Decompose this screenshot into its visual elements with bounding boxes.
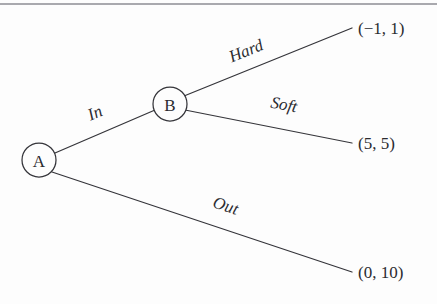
edge-label-soft: Soft <box>269 93 300 117</box>
node-label-a: A <box>33 152 46 171</box>
edge-label-in: In <box>84 101 105 124</box>
game-tree-figure: A B In Hard Soft Out (−1, 1) (5, 5) (0, … <box>0 0 437 304</box>
edge-line-in <box>55 110 155 153</box>
edge-label-hard: Hard <box>225 35 266 66</box>
payoff-label-hard: (−1, 1) <box>358 19 404 38</box>
edge-line-out <box>52 172 352 272</box>
edge-line-hard <box>184 28 352 96</box>
payoff-label-soft: (5, 5) <box>358 134 395 153</box>
payoff-label-out: (0, 10) <box>358 263 403 282</box>
edge-line-soft <box>185 110 352 143</box>
node-label-b: B <box>164 96 175 115</box>
edge-label-out: Out <box>211 193 242 219</box>
game-tree-canvas: A B In Hard Soft Out (−1, 1) (5, 5) (0, … <box>0 0 437 304</box>
